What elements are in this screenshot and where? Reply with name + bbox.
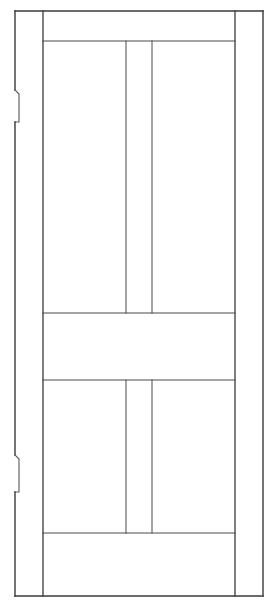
door-elevation-svg <box>0 0 276 608</box>
door-elevation-drawing <box>0 0 276 608</box>
